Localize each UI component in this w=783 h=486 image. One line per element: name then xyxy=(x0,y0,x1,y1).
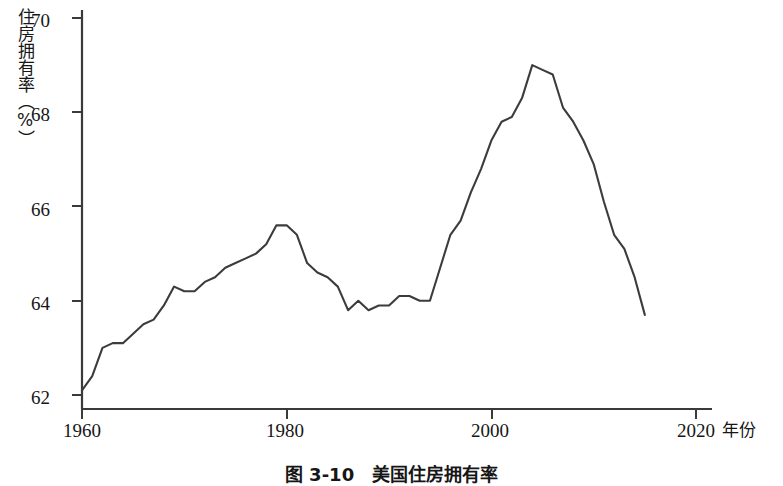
axis-lines xyxy=(82,10,712,409)
x-axis-ticks xyxy=(82,409,696,419)
figure-caption: 图 3-10 美国住房拥有率 xyxy=(0,464,783,486)
homeownership-rate-line xyxy=(82,65,645,390)
y-axis-ticks xyxy=(72,18,82,395)
